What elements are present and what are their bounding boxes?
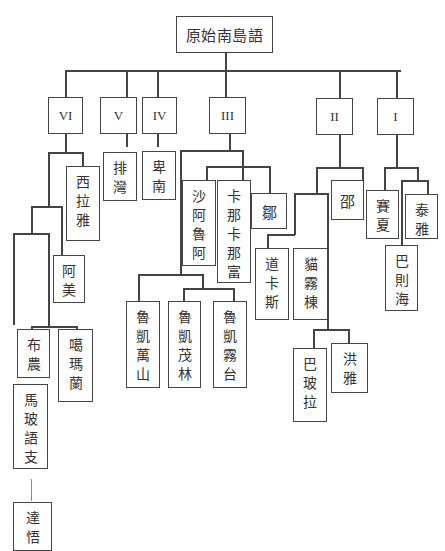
language-label-char: 道 [265,255,279,274]
language-label-char: 那 [227,206,241,225]
language-label-char: 魯 [178,308,192,327]
language-label-char: 霧 [223,346,237,365]
language-label-char: 巴 [395,252,409,271]
language-label-char: 海 [395,290,409,309]
language-label-char: 富 [227,263,241,282]
connector [316,167,363,169]
language-label-char: 卑 [152,158,166,177]
language-node-atayal: 泰 雅 [405,194,438,239]
language-label-char: 台 [223,365,237,384]
connector [206,166,270,168]
connector [384,167,386,191]
connector [269,166,271,194]
language-node-kavalan: 噶 瑪蘭 [58,329,93,402]
connector [267,234,269,248]
connector [157,70,159,98]
language-node-puyuma: 卑 南 [142,151,176,200]
language-node-bunun: 布 農 [17,329,50,378]
language-label-char: 洪 [343,350,357,369]
language-label-char: 玻 [24,410,38,429]
language-label-char: 雅 [343,369,357,388]
connector [229,134,231,150]
language-label-char: 悟 [26,528,40,547]
language-label-char: 賽 [376,197,390,216]
language-node-rukai-mantauran: 魯 凱萬山 [126,301,160,388]
connector [48,152,50,207]
root-label: 原始南島語 [186,24,264,45]
language-label-char: 排 [113,159,127,178]
connector [65,70,401,72]
language-label-char: 山 [136,365,150,384]
connector [327,193,329,330]
language-label-char: 那 [227,244,241,263]
language-node-amis: 阿 美 [53,255,85,303]
connector [13,233,15,325]
connector [61,206,63,256]
language-label: 邵 [340,190,355,211]
language-label-char: 玻 [303,374,317,393]
language-node-kanakanavu: 卡 那卡那富 [217,180,251,283]
connector [384,167,418,169]
connector [206,166,208,181]
connector [401,180,403,246]
language-node-malayo-polynesian: 馬 玻語支 [13,384,48,469]
language-label-char: 噶 [69,336,83,355]
language-label-char: 雅 [415,220,429,239]
connector [48,233,50,327]
language-node-rukai-maga: 魯 凱茂林 [168,301,201,388]
language-label-char: 沙 [192,187,206,206]
connector [126,70,128,98]
connector [31,479,32,501]
language-node-taokas: 道 卡斯 [255,248,289,320]
connector [401,180,428,182]
connector [126,134,128,147]
language-label-char: 斯 [265,293,279,312]
language-node-saisiyat: 賽 夏 [366,190,399,239]
connector [183,288,234,290]
language-label-char: 拉 [303,393,317,412]
connector [233,288,235,301]
language-label-char: 西 [76,173,90,192]
language-label-char: 貓 [304,255,318,274]
connector [138,274,203,276]
connector [396,135,398,167]
language-node-tao: 達 悟 [13,502,52,551]
language-label-char: 萬 [136,346,150,365]
connector [242,150,244,180]
language-label-char: 卡 [227,225,241,244]
language-label-char: 農 [27,355,41,374]
language-label-char: 魯 [223,308,237,327]
connector [13,233,49,235]
language-label-char: 美 [62,281,76,300]
connector [294,193,329,195]
connector [396,70,398,98]
language-label-char: 卡 [265,274,279,293]
language-node-paiwan: 排 灣 [103,152,137,201]
language-label-char: 林 [178,365,192,384]
connector [183,288,185,301]
connector [225,53,227,71]
language-label-char: 阿 [192,244,206,263]
connector [31,206,62,208]
language-label-char: 凱 [178,327,192,346]
language-label-char: 馬 [24,391,38,410]
language-node-hoanya: 洪 雅 [331,343,368,393]
connector [65,134,67,152]
connector [180,150,243,152]
language-node-thao: 邵 [331,180,364,220]
connector [362,167,364,181]
connector [82,152,84,166]
connector [202,274,204,289]
language-tree-diagram: 原始南島語 VI V IV III II I 西 拉雅 阿 美 布 農 [0,0,445,551]
language-label-char: 雅 [76,211,90,230]
connector [65,70,67,98]
branch-node-iv: IV [142,97,177,134]
connector [157,134,159,147]
branch-node-v: V [100,97,137,134]
language-label: 鄒 [262,201,277,222]
connector [225,70,227,98]
language-label-char: 語 [24,429,38,448]
branch-node-ii: II [316,98,353,135]
language-node-tsou: 鄒 [251,193,287,229]
language-label-char: 南 [152,177,166,196]
